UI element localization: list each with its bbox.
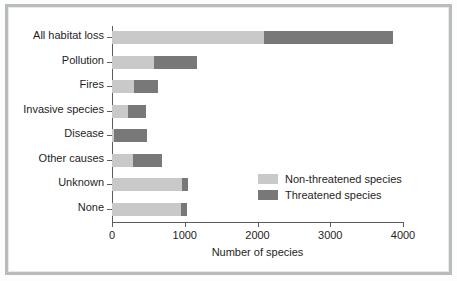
legend-item-threatened: Threatened species [258, 188, 402, 202]
x-axis-tick [403, 222, 404, 227]
x-axis-tick [185, 222, 186, 227]
y-axis-label: Invasive species [23, 102, 104, 116]
bar-row: Pollution [112, 51, 403, 75]
stacked-bar [112, 31, 393, 44]
x-axis-tick-label: 4000 [391, 229, 415, 241]
x-axis-tick-label: 3000 [318, 229, 342, 241]
bar-segment-threatened [181, 203, 187, 216]
figure: All habitat lossPollutionFiresInvasive s… [0, 0, 457, 281]
stacked-bar [112, 154, 162, 167]
legend-item-non-threatened: Non-threatened species [258, 172, 402, 186]
x-axis-tick-label: 0 [109, 229, 115, 241]
stacked-bar [112, 129, 147, 142]
bar-row: All habitat loss [112, 26, 403, 50]
bar-segment-threatened [134, 80, 158, 93]
stacked-bar [112, 56, 197, 69]
chart-legend: Non-threatened species Threatened specie… [258, 172, 402, 204]
x-axis-title: Number of species [112, 246, 403, 258]
stacked-bar [112, 178, 188, 191]
bar-segment-non-threatened [112, 80, 134, 93]
bar-segment-non-threatened [112, 154, 133, 167]
bar-segment-threatened [154, 56, 197, 69]
bar-segment-non-threatened [112, 178, 182, 191]
bar-segment-threatened [128, 105, 146, 118]
y-axis-label: None [78, 200, 104, 214]
bar-segment-threatened [264, 31, 393, 44]
x-axis-tick [112, 222, 113, 227]
legend-swatch-threatened [258, 190, 278, 200]
bar-segment-threatened [133, 154, 162, 167]
bar-row: Fires [112, 75, 403, 99]
bar-segment-non-threatened [112, 203, 181, 216]
bar-row: Invasive species [112, 100, 403, 124]
bar-segment-threatened [182, 178, 188, 191]
legend-swatch-non-threatened [258, 174, 278, 184]
x-axis-tick-label: 2000 [245, 229, 269, 241]
stacked-bar [112, 203, 187, 216]
stacked-bar [112, 105, 146, 118]
x-axis-tick [258, 222, 259, 227]
bar-segment-non-threatened [112, 105, 128, 118]
bar-row: Other causes [112, 149, 403, 173]
stacked-bar [112, 80, 158, 93]
x-axis-tick-label: 1000 [173, 229, 197, 241]
y-axis-label: Pollution [62, 53, 104, 67]
x-axis-tick [330, 222, 331, 227]
bar-segment-non-threatened [112, 31, 264, 44]
bar-row: Disease [112, 124, 403, 148]
y-axis-label: Unknown [58, 175, 104, 189]
bar-segment-non-threatened [112, 56, 154, 69]
legend-label-threatened: Threatened species [285, 189, 382, 201]
y-axis-label: All habitat loss [33, 28, 104, 42]
y-axis-label: Fires [80, 77, 104, 91]
y-axis-label: Other causes [39, 151, 104, 165]
legend-label-non-threatened: Non-threatened species [285, 173, 402, 185]
bar-segment-threatened [114, 129, 147, 142]
y-axis-label: Disease [64, 126, 104, 140]
